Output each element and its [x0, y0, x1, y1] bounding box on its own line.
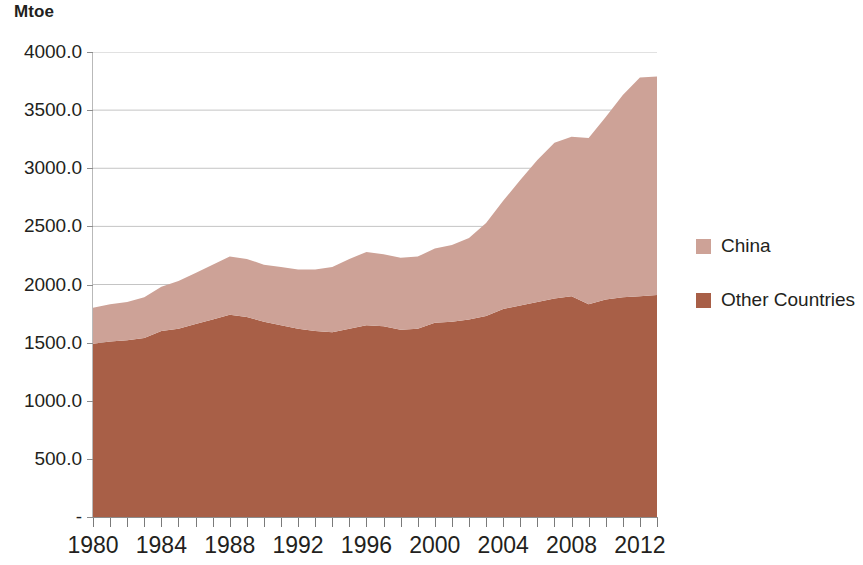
- x-axis-tick-mark: [93, 518, 94, 527]
- x-axis-tick-marks: [0, 518, 863, 530]
- y-axis-tick-mark: [87, 168, 93, 169]
- x-axis-tick-mark: [384, 518, 385, 527]
- y-axis-tick-mark: [87, 459, 93, 460]
- legend-entry[interactable]: China: [696, 236, 863, 256]
- x-axis-tick-mark: [264, 518, 265, 527]
- x-axis-tick-mark: [452, 518, 453, 527]
- x-axis-tick-mark: [503, 518, 504, 527]
- y-axis-tick-label: 3500.0: [8, 100, 82, 119]
- y-axis-tick-label: 1000.0: [8, 391, 82, 410]
- x-axis-tick-mark: [315, 518, 316, 527]
- legend-entry[interactable]: Other Countries: [696, 290, 863, 310]
- x-axis-tick-mark: [298, 518, 299, 527]
- x-axis-tick-label: 1996: [341, 531, 392, 559]
- x-axis-tick-mark: [401, 518, 402, 527]
- x-axis-tick-mark: [623, 518, 624, 527]
- legend-label: Other Countries: [721, 290, 855, 310]
- y-axis-tick-mark: [87, 517, 93, 518]
- x-axis-tick-mark: [349, 518, 350, 527]
- legend-label: China: [721, 236, 771, 256]
- y-axis-tick-mark: [87, 52, 93, 53]
- x-axis-tick-mark: [537, 518, 538, 527]
- y-axis-tick-mark: [87, 343, 93, 344]
- x-axis-tick-mark: [247, 518, 248, 527]
- x-axis-tick-mark: [332, 518, 333, 527]
- x-axis-tick-mark: [366, 518, 367, 527]
- x-axis-tick-mark: [589, 518, 590, 527]
- x-axis-tick-label: 1988: [204, 531, 255, 559]
- y-axis-tick-mark: [87, 110, 93, 111]
- x-axis-labels: 198019841988199219962000200420082012: [0, 531, 863, 565]
- x-axis-tick-label: 1980: [67, 531, 118, 559]
- x-axis-tick-mark: [110, 518, 111, 527]
- x-axis-tick-mark: [230, 518, 231, 527]
- y-axis-tick-label: 2500.0: [8, 216, 82, 235]
- x-axis-tick-mark: [144, 518, 145, 527]
- x-axis-tick-label: 2012: [614, 531, 665, 559]
- x-axis-tick-mark: [435, 518, 436, 527]
- y-axis-tick-label: 3000.0: [8, 158, 82, 177]
- x-axis-tick-mark: [469, 518, 470, 527]
- plot-svg: [93, 52, 657, 517]
- legend-color-swatch: [696, 239, 711, 254]
- y-axis-tick-label: 500.0: [8, 449, 82, 468]
- x-axis-tick-mark: [572, 518, 573, 527]
- y-axis-tick-mark: [87, 285, 93, 286]
- chart-legend: ChinaOther Countries: [696, 236, 863, 344]
- x-axis-tick-mark: [418, 518, 419, 527]
- x-axis-tick-label: 2000: [409, 531, 460, 559]
- x-axis-tick-mark: [196, 518, 197, 527]
- y-axis-tick-label: 4000.0: [8, 42, 82, 61]
- stacked-area-chart: Mtoe -500.01000.01500.02000.02500.03000.…: [0, 0, 863, 565]
- x-axis-tick-mark: [640, 518, 641, 527]
- x-axis-tick-mark: [127, 518, 128, 527]
- x-axis-tick-mark: [520, 518, 521, 527]
- legend-color-swatch: [696, 293, 711, 308]
- x-axis-tick-mark: [161, 518, 162, 527]
- x-axis-tick-mark: [213, 518, 214, 527]
- x-axis-tick-mark: [178, 518, 179, 527]
- x-axis-tick-label: 2004: [478, 531, 529, 559]
- y-axis-tick-mark: [87, 401, 93, 402]
- y-axis-tick-label: 1500.0: [8, 333, 82, 352]
- x-axis-tick-mark: [606, 518, 607, 527]
- x-axis-tick-mark: [657, 518, 658, 527]
- x-axis-tick-mark: [281, 518, 282, 527]
- plot-area: [93, 52, 657, 517]
- x-axis-tick-mark: [486, 518, 487, 527]
- x-axis-tick-mark: [554, 518, 555, 527]
- x-axis-tick-label: 2008: [546, 531, 597, 559]
- y-axis-tick-mark: [87, 226, 93, 227]
- y-axis-labels: -500.01000.01500.02000.02500.03000.03500…: [0, 0, 82, 565]
- y-axis-tick-label: 2000.0: [8, 275, 82, 294]
- x-axis-tick-label: 1992: [272, 531, 323, 559]
- x-axis-tick-label: 1984: [136, 531, 187, 559]
